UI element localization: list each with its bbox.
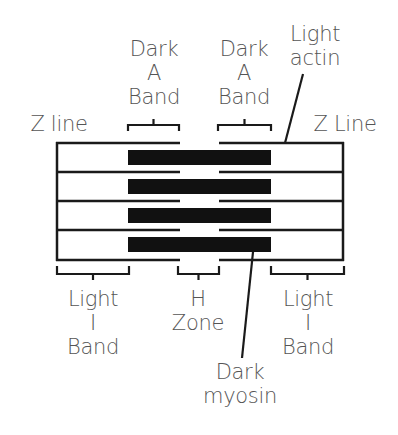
label-line: Light xyxy=(285,22,345,46)
label-line: actin xyxy=(285,46,345,70)
label-line: Band xyxy=(214,85,274,109)
label-light-actin: Light actin xyxy=(285,22,345,70)
label-z-line-right: Z Line xyxy=(308,112,382,136)
a-band-bracket-left xyxy=(128,119,179,131)
label-h-zone: H Zone xyxy=(168,287,228,335)
label-line: Light xyxy=(278,287,338,311)
label-light-i-band-left: Light I Band xyxy=(63,287,123,359)
label-line: A xyxy=(124,61,184,85)
label-line: Dark xyxy=(124,37,184,61)
light-actin-pointer xyxy=(285,74,303,143)
label-line: I xyxy=(278,311,338,335)
label-dark-myosin: Dark myosin xyxy=(200,360,280,408)
label-line: Dark xyxy=(214,37,274,61)
label-line: Band xyxy=(278,335,338,359)
i-band-bracket-right xyxy=(271,266,344,280)
label-line: Z Line xyxy=(308,112,382,136)
label-line: A xyxy=(214,61,274,85)
i-band-bracket-left xyxy=(57,266,129,280)
label-light-i-band-right: Light I Band xyxy=(278,287,338,359)
label-line: Zone xyxy=(168,311,228,335)
label-line: Band xyxy=(63,335,123,359)
label-line: Light xyxy=(63,287,123,311)
label-line: H xyxy=(168,287,228,311)
label-dark-a-band-right: Dark A Band xyxy=(214,37,274,109)
label-line: Z line xyxy=(24,112,94,136)
label-dark-a-band-left: Dark A Band xyxy=(124,37,184,109)
h-zone-bracket xyxy=(178,266,219,280)
label-line: I xyxy=(63,311,123,335)
label-line: Band xyxy=(124,85,184,109)
label-line: myosin xyxy=(200,384,280,408)
label-line: Dark xyxy=(200,360,280,384)
a-band-bracket-right xyxy=(218,119,271,131)
dark-myosin-pointer xyxy=(242,252,253,358)
label-z-line-left: Z line xyxy=(24,112,94,136)
